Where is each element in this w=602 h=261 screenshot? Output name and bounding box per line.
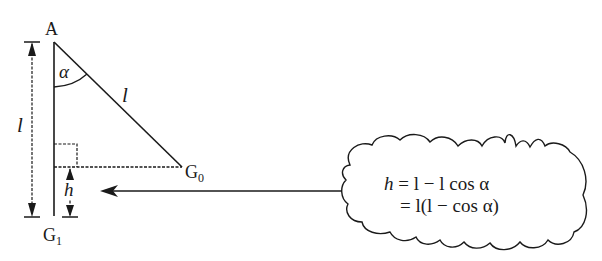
formula-rhs-2: = l(l − cos α) — [400, 195, 499, 216]
string-length-label: l — [122, 85, 128, 106]
length-dimension — [24, 42, 40, 217]
start-point-label: G0 — [185, 163, 204, 184]
start-point-subscript: 0 — [198, 171, 204, 185]
callout-arrow — [100, 185, 346, 197]
end-point-subscript: 1 — [56, 234, 62, 248]
formula-lhs: h — [384, 173, 394, 194]
end-point-label: G1 — [43, 226, 62, 247]
right-angle-marker — [54, 144, 77, 167]
pendulum-diagram: A α l l G0 G1 h h = l − l cos α = l(l − … — [0, 0, 602, 261]
angle-label: α — [59, 62, 69, 81]
formula-line-1: h = l − l cos α — [384, 172, 489, 195]
formula-rhs-1: = l − l cos α — [398, 173, 489, 194]
diagram-graphics — [0, 0, 602, 261]
string-line — [54, 42, 182, 167]
start-point-main: G — [185, 162, 198, 182]
vertical-length-label: l — [17, 115, 23, 136]
pivot-label: A — [45, 20, 58, 38]
height-label: h — [63, 180, 75, 199]
formula-line-2: = l(l − cos α) — [400, 194, 499, 217]
end-point-main: G — [43, 225, 56, 245]
